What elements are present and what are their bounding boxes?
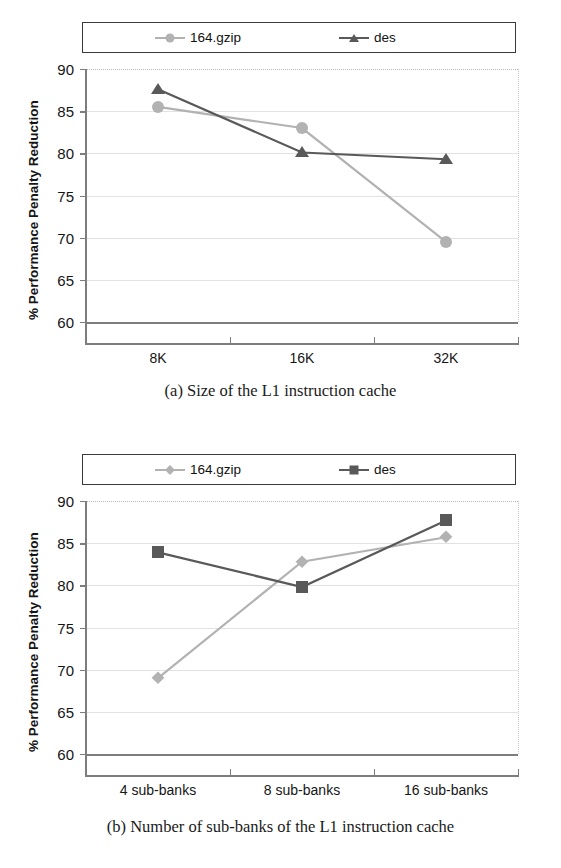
x-tick: [230, 337, 231, 344]
y-axis-line: [85, 501, 87, 776]
figure-caption-a: (a) Size of the L1 instruction cache: [0, 381, 561, 401]
y-tick-label: 80: [42, 145, 74, 162]
y-tick-label: 85: [42, 535, 74, 552]
plot-area-b: [86, 501, 518, 754]
x-tick-label: 16K: [290, 350, 315, 366]
figure-caption-b: (b) Number of sub-banks of the L1 instru…: [0, 817, 561, 837]
y-tick-label: 90: [42, 61, 74, 78]
y-tick-label: 90: [42, 493, 74, 510]
x-axis-line: [85, 775, 519, 777]
y-tick-label: 70: [42, 229, 74, 246]
legend-marker-triangle-icon: [339, 31, 369, 45]
legend-marker-diamond-icon: [155, 463, 185, 477]
x-tick: [374, 337, 375, 344]
y-axis-title-a: % Performance Penalty Reduction: [26, 100, 41, 320]
plot-area-a: [86, 69, 518, 322]
y-tick-label: 60: [42, 746, 74, 763]
series-line-des: [158, 520, 446, 587]
y-axis-line: [85, 69, 87, 344]
series-lines: [86, 69, 518, 322]
y-axis-title-b: % Performance Penalty Reduction: [26, 532, 41, 752]
legend-a: 164.gzip des: [82, 22, 516, 53]
y-tick-label: 80: [42, 577, 74, 594]
legend-b: 164.gzip des: [82, 454, 516, 485]
y-tick-label: 70: [42, 661, 74, 678]
figure-b: 164.gzip des % Performance Penalty Reduc…: [0, 432, 561, 868]
y-tick-label: 60: [42, 314, 74, 331]
legend-entry-des: des: [339, 455, 396, 484]
y-tick-label: 85: [42, 103, 74, 120]
x-tick: [374, 769, 375, 776]
x-tick: [518, 769, 519, 776]
x-tick: [86, 337, 87, 344]
legend-label-gzip: 164.gzip: [190, 462, 241, 477]
legend-marker-square-icon: [339, 463, 369, 477]
legend-entry-gzip: 164.gzip: [155, 455, 241, 484]
plot-right-border: [518, 69, 519, 322]
x-tick: [230, 769, 231, 776]
x-axis-line: [85, 343, 519, 345]
legend-marker-circle-icon: [155, 31, 185, 45]
gridline: [86, 322, 518, 324]
x-tick-label: 8 sub-banks: [264, 782, 340, 798]
x-tick-label: 8K: [149, 350, 166, 366]
x-tick-label: 32K: [434, 350, 459, 366]
chart-b: 164.gzip des % Performance Penalty Reduc…: [0, 432, 561, 824]
y-tick-label: 65: [42, 703, 74, 720]
legend-entry-gzip: 164.gzip: [155, 23, 241, 52]
series-lines: [86, 501, 518, 754]
y-tick-label: 75: [42, 619, 74, 636]
x-tick: [86, 769, 87, 776]
figure-a: 164.gzip des % Performance Penalty Reduc…: [0, 0, 561, 432]
x-tick-label: 4 sub-banks: [120, 782, 196, 798]
gridline: [86, 754, 518, 756]
y-tick-label: 65: [42, 271, 74, 288]
legend-label-des: des: [374, 30, 396, 45]
legend-entry-des: des: [339, 23, 396, 52]
legend-label-des: des: [374, 462, 396, 477]
legend-label-gzip: 164.gzip: [190, 30, 241, 45]
plot-right-border: [518, 501, 519, 754]
chart-a: 164.gzip des % Performance Penalty Reduc…: [0, 0, 561, 392]
x-tick-label: 16 sub-banks: [404, 782, 488, 798]
y-tick-label: 75: [42, 187, 74, 204]
x-tick: [518, 337, 519, 344]
